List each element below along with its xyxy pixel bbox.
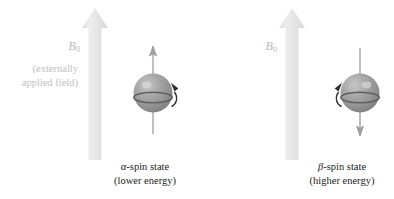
caption-state-line-alpha: α-spin state [86, 160, 204, 174]
b0-field-arrow-alpha [82, 8, 108, 160]
b0-subscript: 0 [273, 45, 277, 54]
nucleus-alpha [122, 44, 194, 138]
b0-symbol: B [68, 39, 75, 53]
beta-state-text: -spin state [323, 161, 366, 172]
caption-alpha: α-spin state (lower energy) [86, 160, 204, 187]
alpha-state-text: -spin state [126, 161, 169, 172]
field-note-line2: applied field) [2, 76, 78, 90]
b0-label-beta: B0 [249, 40, 277, 54]
field-note-alpha: (externally applied field) [2, 62, 78, 89]
caption-state-line-beta: β-spin state [283, 160, 394, 174]
caption-energy-line-alpha: (lower energy) [86, 174, 204, 188]
b0-subscript: 0 [76, 45, 80, 54]
caption-energy-line-beta: (higher energy) [283, 174, 394, 188]
b0-field-arrow-beta [279, 8, 305, 160]
b0-symbol: B [265, 39, 272, 53]
beta-spin-panel: B0 [197, 0, 394, 199]
b0-label-alpha: B0 [52, 40, 80, 54]
alpha-spin-panel: B0 (externally applied field) [0, 0, 197, 199]
field-note-line1: (externally [2, 62, 78, 76]
nucleus-beta [319, 44, 391, 138]
caption-beta: β-spin state (higher energy) [283, 160, 394, 187]
